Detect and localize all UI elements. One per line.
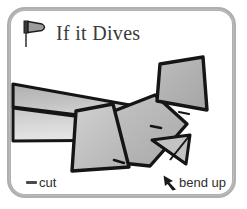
callout-bend-up: bend up [162,174,226,191]
pennant-flag-icon [22,18,48,48]
bend-up-arrow-icon [162,174,178,191]
callout-cut: cut [26,176,56,189]
callout-bend-up-label: bend up [179,176,226,189]
callout-cut-label: cut [39,176,56,189]
instruction-card: If it Dives cut bend up [0,0,247,209]
title-row: If it Dives [22,18,140,48]
cut-dash-marker [26,181,37,184]
page-title: If it Dives [56,23,140,43]
tail-panel [157,57,207,110]
